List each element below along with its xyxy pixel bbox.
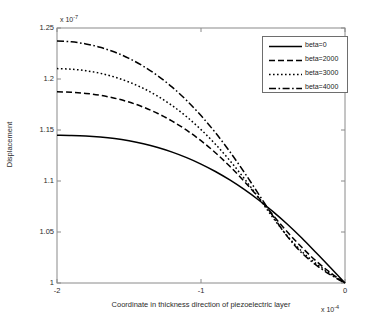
legend-entry-1: beta=2000 [267, 54, 345, 67]
y-tick-label: 1.05 [10, 227, 54, 236]
y-axis-multiplier: x 10-7 [60, 14, 78, 23]
x-axis-multiplier: x 10-4 [321, 304, 339, 313]
y-tick-label: 1.2 [10, 74, 54, 83]
legend-box: beta=0 beta=2000 beta=3000 beta=4000 [262, 36, 348, 93]
y-axis-label: Displacement [5, 105, 14, 185]
x-tick-label: 0 [325, 286, 365, 295]
legend-label-2: beta=3000 [305, 69, 338, 76]
x-multiplier-exponent: -4 [334, 304, 339, 310]
legend-entry-2: beta=3000 [267, 68, 345, 81]
series-line-1 [57, 92, 345, 283]
legend-entry-0: beta=0 [267, 40, 345, 53]
x-multiplier-base: x 10 [321, 306, 334, 313]
y-multiplier-exponent: -7 [73, 14, 78, 20]
y-tick-label: 1.15 [10, 125, 54, 134]
series-line-2 [57, 69, 345, 283]
y-multiplier-base: x 10 [60, 16, 73, 23]
x-tick-label: -1 [181, 286, 221, 295]
legend-label-1: beta=2000 [305, 55, 338, 62]
y-tick-label: 1.1 [10, 176, 54, 185]
legend-entry-3: beta=4000 [267, 82, 345, 95]
x-tick-label: -2 [37, 286, 77, 295]
figure-canvas: Displacement Coordinate in thickness dir… [0, 0, 372, 327]
series-line-0 [57, 135, 345, 283]
legend-label-0: beta=0 [305, 41, 327, 48]
x-axis-label: Coordinate in thickness direction of pie… [57, 300, 345, 309]
y-tick-label: 1.25 [10, 23, 54, 32]
legend-label-3: beta=4000 [305, 83, 338, 90]
